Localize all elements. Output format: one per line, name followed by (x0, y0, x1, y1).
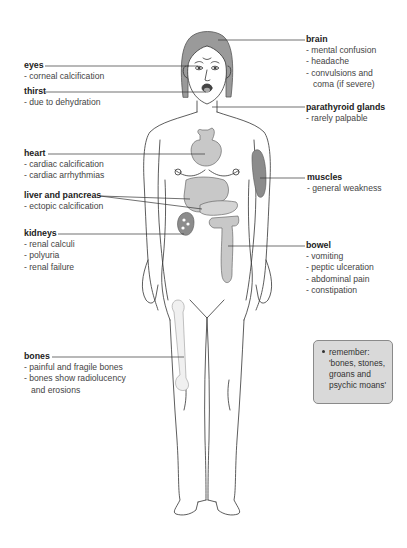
label-item: - cardiac calcification (24, 159, 104, 170)
label-title: liver and pancreas (24, 190, 103, 201)
label-item: - due to dehydration (24, 97, 100, 108)
label-title: heart (24, 148, 104, 159)
label-eyes: eyes - corneal calcification (24, 60, 104, 82)
right-leg (216, 320, 244, 515)
label-item: - bones show radiolucency (24, 373, 126, 384)
label-item: coma (if severe) (306, 79, 376, 90)
label-item: - peptic ulceration (306, 262, 374, 273)
remember-line: 'bones, stones, (329, 358, 388, 369)
heart-organ (191, 128, 221, 166)
label-item: - mental confusion (306, 45, 376, 56)
face (188, 46, 227, 104)
label-title: parathyroid glands (306, 102, 385, 113)
label-item: - convulsions and (306, 68, 376, 79)
label-title: bowel (306, 240, 374, 251)
label-title: thirst (24, 86, 100, 97)
label-item: - corneal calcification (24, 71, 104, 82)
bowel-organ (209, 216, 239, 283)
label-liver-pancreas: liver and pancreas - ectopic calcificati… (24, 190, 103, 212)
label-item: - ectopic calcification (24, 201, 103, 212)
label-item: and erosions (24, 385, 126, 396)
label-item: - constipation (306, 285, 374, 296)
label-title: bones (24, 351, 126, 362)
label-muscles: muscles - general weakness (307, 172, 382, 194)
remember-box: remember: 'bones, stones, groans and psy… (313, 340, 393, 404)
label-item: - rarely palpable (306, 113, 385, 124)
remember-line: remember: (329, 347, 388, 358)
label-bones: bones - painful and fragile bones - bone… (24, 351, 126, 396)
label-item: - cardiac arrhythmias (24, 170, 104, 181)
remember-line: groans and (329, 369, 388, 380)
bullet-icon (322, 350, 325, 353)
label-bowel: bowel - vomiting - peptic ulceration - a… (306, 240, 374, 296)
label-parathyroid: parathyroid glands - rarely palpable (306, 102, 385, 124)
label-title: kidneys (24, 228, 75, 239)
label-item: - general weakness (307, 183, 382, 194)
label-title: brain (306, 34, 376, 45)
pancreas-organ (200, 201, 238, 216)
label-brain: brain - mental confusion - headache - co… (306, 34, 376, 90)
label-thirst: thirst - due to dehydration (24, 86, 100, 108)
label-kidneys: kidneys - renal calculi - polyuria - ren… (24, 228, 75, 273)
label-title: muscles (307, 172, 382, 183)
kidney-organ (178, 212, 195, 235)
remember-line: psychic moans' (329, 380, 388, 391)
label-item: - painful and fragile bones (24, 362, 126, 373)
muscle-organ (252, 150, 266, 198)
label-item: - renal failure (24, 262, 75, 273)
label-item: - abdominal pain (306, 274, 374, 285)
label-heart: heart - cardiac calcification - cardiac … (24, 148, 104, 182)
femur (172, 300, 188, 391)
label-title: eyes (24, 60, 104, 71)
label-item: - headache (306, 56, 376, 67)
label-item: - polyuria (24, 250, 75, 261)
label-item: - vomiting (306, 251, 374, 262)
torso-outline (144, 112, 197, 310)
label-item: - renal calculi (24, 239, 75, 250)
